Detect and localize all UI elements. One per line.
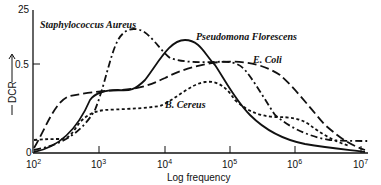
label-staphylococcus-aureus: Staphylococcus Aureus xyxy=(40,19,136,30)
label-e-coli: E. Coli xyxy=(252,54,282,65)
svg-text:107: 107 xyxy=(353,158,368,170)
y-tick-label-top: 25 xyxy=(18,4,30,15)
svg-text:102: 102 xyxy=(26,158,41,170)
y-tick-label-mid: 0.5 xyxy=(15,59,29,70)
svg-text:106: 106 xyxy=(287,158,302,170)
x-tick-labels: 102 103 104 105 106 107 xyxy=(26,158,368,170)
y-tick-label-zero: 0 xyxy=(26,147,32,158)
curve-b-cereus xyxy=(34,82,350,146)
label-b-cereus: B. Cereus xyxy=(164,99,206,110)
svg-text:104: 104 xyxy=(157,158,172,170)
label-pseudomona-florescens: Pseudomona Florescens xyxy=(196,31,297,42)
svg-text:105: 105 xyxy=(222,158,237,170)
x-axis-title: Log frequency xyxy=(167,172,230,183)
chart: 25 0.5 0 102 103 104 105 106 107 Log fre… xyxy=(0,0,381,185)
y-axis-title: DCR xyxy=(7,81,18,103)
curve-pseudomona-florescens xyxy=(34,40,365,152)
svg-text:103: 103 xyxy=(91,158,106,170)
